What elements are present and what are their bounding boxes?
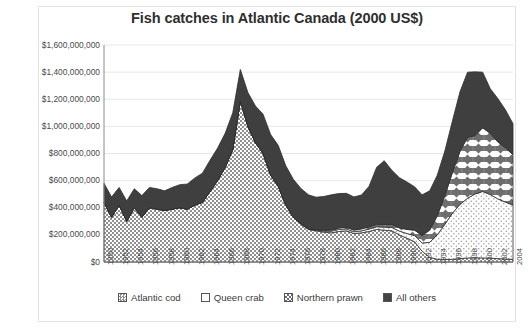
legend-label: All others	[396, 292, 436, 303]
plot-area: $0$200,000,000$400,000,000$600,000,000$8…	[0, 0, 528, 332]
x-axis-tick-label: 2000	[486, 248, 494, 265]
legend-item[interactable]: Northern prawn	[284, 292, 363, 303]
y-axis-tick-label: $200,000,000	[49, 230, 100, 238]
x-axis-tick-label: 1988	[395, 248, 403, 265]
legend-swatch-fine-checker-icon	[118, 293, 127, 302]
x-axis-tick-label: 1986	[380, 248, 388, 265]
legend-item[interactable]: Queen crab	[201, 292, 264, 303]
y-axis-tick-label: $1,600,000,000	[42, 41, 100, 49]
y-axis-tick-label: $800,000,000	[49, 149, 100, 157]
chart-legend: Atlantic codQueen crabNorthern prawnAll …	[38, 292, 516, 303]
x-axis-tick-label: 1982	[349, 248, 357, 265]
legend-swatch-solid-dark-icon	[383, 293, 392, 302]
y-axis-tick-label: $1,000,000,000	[42, 122, 100, 130]
x-axis-tick-label: 1962	[198, 248, 206, 265]
legend-label: Atlantic cod	[131, 292, 181, 303]
area-series-group	[104, 69, 513, 262]
x-axis-tick-label: 1960	[183, 248, 191, 265]
x-axis-tick-label: 2002	[501, 248, 509, 265]
y-axis-tick-label: $400,000,000	[49, 203, 100, 211]
chart-container: Fish catches in Atlantic Canada (2000 US…	[0, 0, 528, 332]
legend-swatch-fine-dot-icon	[201, 293, 210, 302]
x-axis-tick-label: 1980	[334, 248, 342, 265]
x-axis-tick-label: 1972	[274, 248, 282, 265]
x-axis-tick-label: 1994	[440, 248, 448, 265]
x-axis-tick-label: 1958	[168, 248, 176, 265]
y-axis-tick-label: $0	[91, 258, 100, 266]
x-axis-tick-label: 1996	[455, 248, 463, 265]
x-axis-tick-label: 1974	[289, 248, 297, 265]
x-axis-tick-label: 1950	[107, 248, 115, 265]
x-axis-tick-label: 1954	[137, 248, 145, 265]
x-axis-tick-label: 1984	[365, 248, 373, 265]
x-axis-tick-label: 1976	[304, 248, 312, 265]
legend-label: Queen crab	[214, 292, 264, 303]
x-axis-tick-label: 1970	[258, 248, 266, 265]
x-axis-tick-label: 1956	[152, 248, 160, 265]
x-axis-tick-label: 1998	[471, 248, 479, 265]
x-axis-tick-label: 1964	[213, 248, 221, 265]
x-axis-tick-label: 1952	[122, 248, 130, 265]
legend-swatch-bold-checker-icon	[284, 293, 293, 302]
x-axis-tick-label: 1966	[228, 248, 236, 265]
legend-item[interactable]: Atlantic cod	[118, 292, 181, 303]
stacked-area-chart	[0, 0, 528, 332]
x-axis-tick-label: 1992	[425, 248, 433, 265]
y-axis-tick-label: $1,400,000,000	[42, 68, 100, 76]
legend-label: Northern prawn	[297, 292, 363, 303]
x-axis-tick-label: 2004	[516, 248, 524, 265]
legend-item[interactable]: All others	[383, 292, 436, 303]
y-axis-tick-label: $1,200,000,000	[42, 95, 100, 103]
x-axis-tick-label: 1978	[319, 248, 327, 265]
y-axis-tick-label: $600,000,000	[49, 176, 100, 184]
x-axis-tick-label: 1968	[243, 248, 251, 265]
x-axis-tick-label: 1990	[410, 248, 418, 265]
